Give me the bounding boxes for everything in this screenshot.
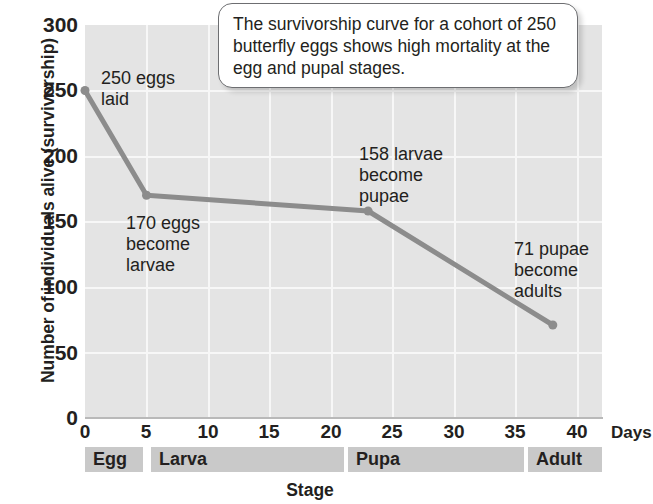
x-tick-label: 5 (116, 422, 176, 441)
annotation-larvae-become-pupae: 158 larvae become pupae (359, 144, 443, 208)
callout-box: The survivorship curve for a cohort of 2… (218, 3, 578, 88)
x-tick-label: 35 (485, 422, 545, 441)
stage-band-adult: Adult (528, 447, 602, 472)
stage-band-label: Egg (93, 449, 127, 469)
stage-band-label: Adult (536, 449, 582, 469)
x-tick-label: 15 (239, 422, 299, 441)
stage-band-larva: Larva (151, 447, 344, 472)
data-point (142, 191, 151, 200)
x-tick-label: 20 (301, 422, 361, 441)
y-tick-label: 50 (18, 342, 78, 363)
stage-band-pupa: Pupa (348, 447, 524, 472)
x-tick-label: 0 (55, 422, 115, 441)
data-point (81, 86, 90, 95)
y-tick-label: 250 (18, 79, 78, 100)
x-axis-unit-label: Days (611, 423, 652, 443)
stage-band-label: Larva (159, 449, 207, 469)
annotation-eggs-laid: 250 eggs laid (101, 68, 175, 110)
y-tick-label: 100 (18, 276, 78, 297)
y-axis-tick-labels: 300 250 200 150 100 50 0 (10, 0, 78, 440)
x-tick-label: 30 (424, 422, 484, 441)
annotation-eggs-become-larvae: 170 eggs become larvae (126, 213, 200, 277)
data-point (364, 207, 373, 216)
x-tick-label: 25 (362, 422, 422, 441)
stage-band-egg: Egg (85, 447, 143, 472)
stage-band-label: Pupa (356, 449, 400, 469)
x-tick-label: 40 (547, 422, 607, 441)
data-point (548, 321, 557, 330)
y-tick-label: 200 (18, 145, 78, 166)
x-tick-label: 10 (178, 422, 238, 441)
y-tick-label: 300 (18, 14, 78, 35)
y-tick-label: 150 (18, 210, 78, 231)
survivorship-chart-figure: Number of individuals alive (survivorshi… (0, 0, 653, 504)
annotation-pupae-become-adults: 71 pupae become adults (514, 239, 589, 303)
x-axis-title: Stage (0, 480, 620, 501)
